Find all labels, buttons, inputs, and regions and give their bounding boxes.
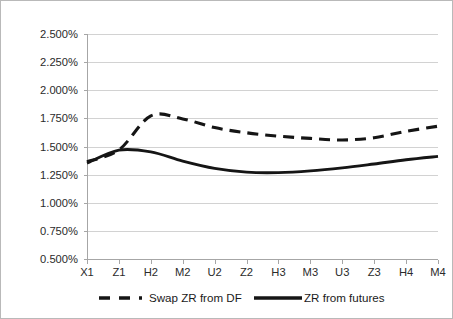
x-axis-label-6: H3: [271, 266, 285, 278]
chart-legend: Swap ZR from DFZR from futures: [99, 291, 385, 304]
line-chart: 0.500%0.750%1.000%1.250%1.500%1.750%2.00…: [1, 1, 453, 319]
x-axis-label-0: X1: [80, 266, 94, 278]
x-axis-label-2: H2: [144, 266, 158, 278]
y-axis-label-1: 0.750%: [40, 225, 78, 237]
x-axis-label-9: Z3: [368, 266, 381, 278]
x-axis-label-10: H4: [399, 266, 413, 278]
x-axis-label-4: U2: [207, 266, 221, 278]
y-axis-label-3: 1.250%: [40, 169, 78, 181]
y-axis-label-5: 1.750%: [40, 112, 78, 124]
data-series: [87, 114, 438, 173]
x-axis-label-11: M4: [430, 266, 446, 278]
series-line-swap-zr-from-df: [87, 114, 438, 162]
x-axis-label-1: Z1: [112, 266, 125, 278]
x-axis-label-7: M3: [303, 266, 319, 278]
y-axis-label-6: 2.000%: [40, 84, 78, 96]
y-axis-label-0: 0.500%: [40, 253, 78, 265]
y-axis-tick-labels: 0.500%0.750%1.000%1.250%1.500%1.750%2.00…: [40, 28, 78, 265]
chart-container: 0.500%0.750%1.000%1.250%1.500%1.750%2.00…: [0, 0, 453, 319]
series-line-zr-from-futures: [87, 149, 438, 172]
x-axis-label-3: M2: [175, 266, 191, 278]
gridlines: [87, 35, 438, 260]
y-axis-label-7: 2.250%: [40, 56, 78, 68]
y-axis-label-4: 1.500%: [40, 141, 78, 153]
legend-label-zr-from-futures: ZR from futures: [304, 291, 385, 304]
x-axis-tick-labels: X1Z1H2M2U2Z2H3M3U3Z3H4M4: [80, 266, 446, 278]
x-axis-label-5: Z2: [240, 266, 253, 278]
y-axis-label-2: 1.000%: [40, 197, 78, 209]
y-axis-label-8: 2.500%: [40, 28, 78, 40]
x-axis-label-8: U3: [335, 266, 349, 278]
legend-label-swap-zr-from-df: Swap ZR from DF: [149, 291, 242, 304]
